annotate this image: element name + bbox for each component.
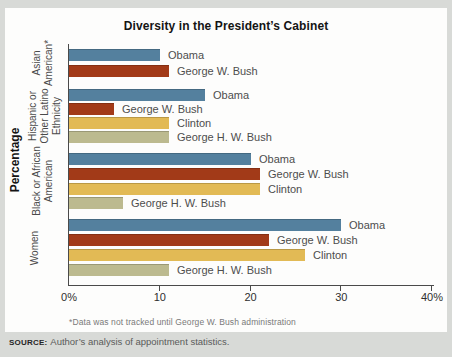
bar-obama [69,153,251,165]
x-tick-label: 40% [421,291,443,303]
bar-label: Obama [349,219,385,231]
x-tick-label: 0% [61,291,77,303]
bar-george-w-bush [69,65,169,77]
bar-label: George H. W. Bush [177,131,272,143]
bar-clinton [69,183,260,195]
bar-label: Clinton [313,249,347,261]
footnote: *Data was not tracked until George W. Bu… [69,317,296,327]
bar-label: George W. Bush [122,103,203,115]
chart-panel: Diversity in the President’s Cabinet Per… [5,8,447,332]
x-tick-label: 20 [244,291,256,303]
category-label: Hispanic or Other Latino Ethnicity [27,88,63,143]
category-label: Women [29,230,41,264]
bar-label: Obama [259,153,295,165]
bar-clinton [69,117,169,129]
y-axis-title: Percentage [8,128,22,193]
bar-obama [69,49,160,61]
bar-george-h-w-bush [69,264,169,276]
source-line: SOURCE:Author’s analysis of appointment … [9,336,229,347]
x-axis-line [68,285,434,286]
chart-title: Diversity in the President’s Cabinet [5,19,447,33]
bar-label: George W. Bush [268,168,349,180]
bar-label: Clinton [268,183,302,195]
category-label: Asian American* [31,40,55,86]
bar-george-h-w-bush [69,197,123,209]
bar-clinton [69,249,305,261]
bar-label: George H. W. Bush [131,197,226,209]
category-label: Black or African American [31,146,55,215]
x-tick-label: 10 [154,291,166,303]
bar-label: Obama [213,89,249,101]
source-label: SOURCE: [9,338,47,347]
bar-label: Clinton [177,117,211,129]
bar-george-w-bush [69,168,260,180]
bar-obama [69,89,205,101]
bar-george-h-w-bush [69,131,169,143]
bar-label: George H. W. Bush [177,264,272,276]
bar-label: George W. Bush [277,234,358,246]
bar-obama [69,219,341,231]
x-tick-label: 30 [335,291,347,303]
bar-label: Obama [168,49,204,61]
bar-george-w-bush [69,103,114,115]
bar-george-w-bush [69,234,269,246]
bar-label: George W. Bush [177,65,258,77]
figure: Diversity in the President’s Cabinet Per… [0,0,452,357]
source-text: Author’s analysis of appointment statist… [50,336,229,347]
